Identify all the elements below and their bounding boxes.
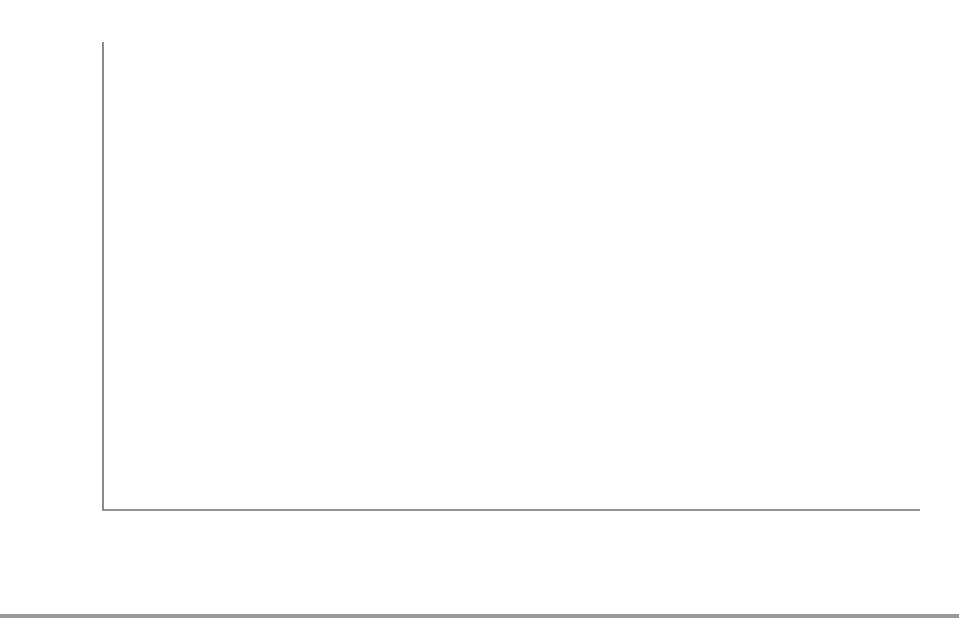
figure-container	[0, 0, 959, 625]
axis-lines	[103, 42, 920, 510]
bottom-divider-rule	[0, 614, 959, 618]
chart-svg	[0, 0, 959, 625]
